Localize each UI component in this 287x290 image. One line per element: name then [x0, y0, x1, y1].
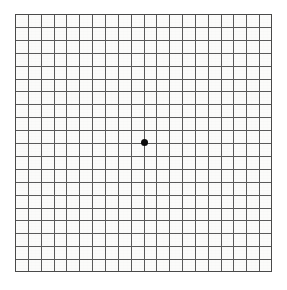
grid-line-horizontal: [15, 104, 272, 105]
grid-line-horizontal: [15, 233, 272, 234]
grid-line-horizontal: [15, 53, 272, 54]
amsler-grid-page: Amsler Grid: [0, 0, 287, 290]
amsler-grid-plate: [15, 14, 272, 272]
grid-line-horizontal: [15, 79, 272, 80]
grid-line-horizontal: [15, 143, 272, 144]
grid-line-horizontal: [15, 130, 272, 131]
grid-line-horizontal: [15, 91, 272, 92]
grid-line-horizontal: [15, 182, 272, 183]
grid-line-horizontal: [15, 40, 272, 41]
grid-line-horizontal: [15, 195, 272, 196]
grid-ruling: [15, 14, 272, 272]
grid-line-horizontal: [15, 66, 272, 67]
grid-line-horizontal: [15, 220, 272, 221]
grid-line-horizontal: [15, 259, 272, 260]
grid-line-horizontal: [15, 208, 272, 209]
chart-title: Amsler Grid: [0, 0, 1, 1]
grid-line-horizontal: [15, 169, 272, 170]
grid-line-horizontal: [15, 27, 272, 28]
grid-line-horizontal: [15, 246, 272, 247]
grid-line-horizontal: [15, 117, 272, 118]
grid-line-horizontal: [15, 156, 272, 157]
